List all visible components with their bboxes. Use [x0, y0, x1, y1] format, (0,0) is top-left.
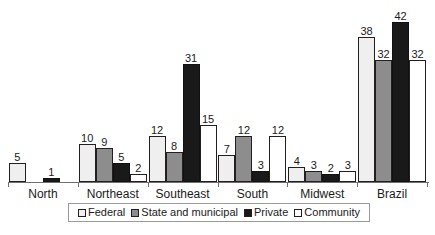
- bar: 32: [409, 60, 426, 182]
- bar: 4: [288, 167, 305, 182]
- legend-label: Federal: [88, 207, 125, 218]
- bar-value-label: 10: [81, 133, 93, 144]
- bar-slot: 9: [96, 6, 113, 182]
- bar: 32: [375, 60, 392, 182]
- legend-swatch-icon: [131, 209, 139, 217]
- bar-value-label: 42: [394, 11, 406, 22]
- bar-slot: 7: [218, 6, 235, 182]
- legend-item[interactable]: State and municipal: [131, 207, 238, 218]
- legend-label: Community: [304, 207, 360, 218]
- bar: 8: [166, 152, 183, 182]
- bar-value-label: 7: [224, 144, 230, 155]
- bar-value-label: 5: [14, 152, 20, 163]
- bar-slot: 15: [200, 6, 217, 182]
- bar-value-label: 1: [48, 167, 54, 178]
- bar-group: 51: [8, 6, 78, 182]
- bar: 10: [79, 144, 96, 182]
- bar: 12: [235, 136, 252, 182]
- bar: 5: [9, 163, 26, 182]
- bar-slot: 32: [375, 6, 392, 182]
- category-label-southeast: Southeast: [148, 186, 218, 202]
- bar-value-label: 31: [185, 53, 197, 64]
- bar-slot: 31: [183, 6, 200, 182]
- bar-slot: 3: [252, 6, 269, 182]
- bar: 5: [113, 163, 130, 182]
- bar-groups: 51109521283115712312432338324232: [8, 6, 427, 182]
- category-label-brazil: Brazil: [357, 186, 427, 202]
- bar-value-label: 3: [345, 160, 351, 171]
- bar-slot: 12: [235, 6, 252, 182]
- bar-group: 1283115: [148, 6, 218, 182]
- bar: 7: [218, 155, 235, 182]
- bar-value-label: 12: [151, 125, 163, 136]
- category-label-north: North: [8, 186, 78, 202]
- bar: 2: [130, 174, 147, 182]
- bar-slot: 8: [166, 6, 183, 182]
- bar-slot: 5: [9, 6, 26, 182]
- bar-slot: 4: [288, 6, 305, 182]
- legend-item[interactable]: Community: [294, 207, 360, 218]
- bar: 3: [339, 171, 356, 182]
- bar: 3: [305, 171, 322, 182]
- bar: 12: [149, 136, 166, 182]
- bar-value-label: 2: [135, 163, 141, 174]
- bar-slot: 10: [79, 6, 96, 182]
- bar-slot: 5: [113, 6, 130, 182]
- bar-slot: 32: [409, 6, 426, 182]
- bar-value-label: 12: [272, 125, 284, 136]
- bar-value-label: 32: [411, 49, 423, 60]
- bar-group: 4323: [287, 6, 357, 182]
- legend-swatch-icon: [244, 209, 252, 217]
- bar: 31: [183, 64, 200, 182]
- bar-value-label: 9: [101, 137, 107, 148]
- category-label-midwest: Midwest: [287, 186, 357, 202]
- legend-item[interactable]: Private: [244, 207, 288, 218]
- bar-value-label: 8: [171, 141, 177, 152]
- bar-value-label: 3: [311, 160, 317, 171]
- bar-chart: 51109521283115712312432338324232 NorthNo…: [0, 0, 435, 235]
- bar-value-label: 4: [294, 156, 300, 167]
- bar-group: 10952: [78, 6, 148, 182]
- bar-slot: [60, 6, 77, 182]
- legend-item[interactable]: Federal: [78, 207, 125, 218]
- bar-slot: 2: [130, 6, 147, 182]
- bar-value-label: 5: [118, 152, 124, 163]
- bar: 15: [200, 125, 217, 182]
- bar-value-label: 15: [202, 114, 214, 125]
- bar-value-label: 3: [258, 160, 264, 171]
- bar-slot: 2: [322, 6, 339, 182]
- bar-group: 712312: [217, 6, 287, 182]
- bar-value-label: 12: [238, 125, 250, 136]
- category-label-south: South: [217, 186, 287, 202]
- bar: 42: [392, 22, 409, 182]
- bar-slot: 12: [269, 6, 286, 182]
- plot-area: 51109521283115712312432338324232: [8, 6, 427, 182]
- bar-slot: 42: [392, 6, 409, 182]
- bar-slot: [26, 6, 43, 182]
- category-label-northeast: Northeast: [78, 186, 148, 202]
- bar: 2: [322, 174, 339, 182]
- chart-legend: FederalState and municipalPrivateCommuni…: [68, 203, 370, 222]
- bar: 3: [252, 171, 269, 182]
- axis-tick: [427, 183, 428, 187]
- bar-group: 38324232: [357, 6, 427, 182]
- bar-slot: 38: [358, 6, 375, 182]
- bar: 12: [269, 136, 286, 182]
- legend-swatch-icon: [78, 209, 86, 217]
- bar-slot: 1: [43, 6, 60, 182]
- bar-value-label: 38: [360, 26, 372, 37]
- bar: 38: [358, 37, 375, 182]
- bar: 9: [96, 148, 113, 182]
- legend-label: Private: [254, 207, 288, 218]
- bar-slot: 3: [339, 6, 356, 182]
- category-axis-labels: NorthNortheastSoutheastSouthMidwestBrazi…: [8, 186, 427, 202]
- legend-label: State and municipal: [141, 207, 238, 218]
- bar-value-label: 2: [328, 163, 334, 174]
- legend-swatch-icon: [294, 209, 302, 217]
- bar-slot: 12: [149, 6, 166, 182]
- bar-value-label: 32: [377, 49, 389, 60]
- bar-slot: 3: [305, 6, 322, 182]
